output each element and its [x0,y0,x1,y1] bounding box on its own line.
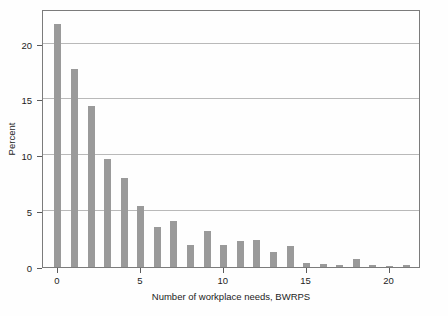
y-tick-mark-0 [37,268,42,269]
y-tick-label-5: 5 [27,208,32,217]
y-tick-label-0: 0 [27,264,32,273]
bar [88,106,95,267]
bar [253,240,260,267]
bar [54,24,61,267]
bar [170,221,177,267]
x-tick-label-10: 10 [217,275,228,286]
y-axis: 05101520 [0,0,42,316]
bar [403,265,410,267]
x-tick-label-20: 20 [383,275,394,286]
bar [220,245,227,267]
bar [154,227,161,267]
bar [336,265,343,267]
x-tick-mark-15 [306,268,307,273]
gridline-y-20 [43,43,419,44]
y-tick-label-15: 15 [21,96,32,105]
y-tick-label-10: 10 [21,152,32,161]
gridline-y-15 [43,98,419,99]
bar [353,259,360,267]
chart-figure: Percent 05101520 05101520 Number of work… [0,0,448,316]
bar [104,159,111,267]
gridline-y-5 [43,210,419,211]
plot-area [42,10,420,268]
x-tick-label-5: 5 [137,275,142,286]
bar [121,178,128,267]
bar [187,245,194,267]
bar [386,266,393,267]
bar [270,252,277,267]
bar [71,69,78,267]
x-tick-label-0: 0 [54,275,59,286]
x-tick-label-15: 15 [300,275,311,286]
x-axis-title: Number of workplace needs, BWRPS [42,291,420,302]
x-tick-mark-5 [140,268,141,273]
bar [204,231,211,267]
bar [369,265,376,267]
bar [303,263,310,267]
bar [287,246,294,267]
x-tick-mark-20 [389,268,390,273]
gridline-y-10 [43,154,419,155]
bar [237,241,244,267]
x-tick-mark-10 [223,268,224,273]
y-tick-label-20: 20 [21,40,32,49]
x-tick-mark-0 [57,268,58,273]
bar [320,264,327,267]
bar [137,206,144,267]
